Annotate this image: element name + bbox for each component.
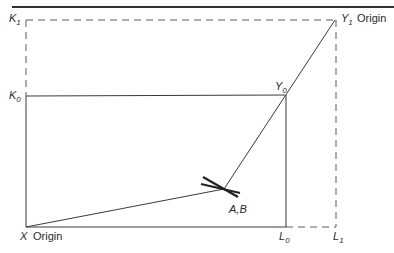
edgeworth-box-diagram: K1 K0 Y1 Origin Y0 X Origin L0 L1 A,B: [0, 0, 394, 253]
isoquant-a: [203, 177, 238, 197]
label-k0: K0: [9, 89, 21, 104]
label-l1: L1: [333, 230, 344, 245]
label-x: X: [19, 230, 28, 242]
label-y1-origin: Origin: [357, 12, 386, 24]
label-k1: K1: [9, 12, 21, 27]
label-l0: L0: [279, 230, 290, 245]
label-x-origin: Origin: [33, 230, 62, 242]
label-y1: Y1: [341, 12, 353, 27]
label-y0: Y0: [275, 80, 287, 95]
path-ab-to-y1: [224, 20, 335, 189]
label-ab: A,B: [228, 203, 247, 215]
solid-top-edge: [26, 95, 285, 96]
path-x-to-ab: [26, 189, 224, 227]
isoquant-b: [201, 184, 240, 193]
